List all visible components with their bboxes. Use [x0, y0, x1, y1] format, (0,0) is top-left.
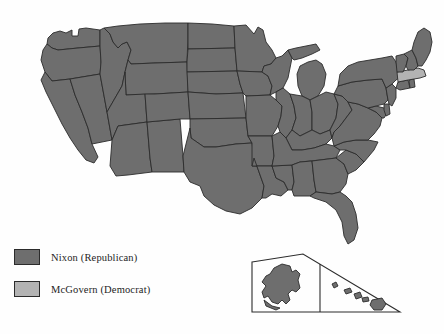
state-MI[interactable] [288, 44, 326, 100]
legend-item-democrat[interactable]: McGovern (Democrat) [14, 278, 204, 300]
state-HI-2[interactable] [344, 288, 352, 294]
legend-swatch-republican [14, 249, 40, 265]
state-AR[interactable] [248, 136, 274, 166]
state-KS[interactable] [188, 92, 246, 119]
state-FL[interactable] [310, 192, 358, 244]
state-HI-4[interactable] [362, 297, 369, 302]
state-SD[interactable] [187, 48, 237, 72]
legend-item-republican[interactable]: Nixon (Republican) [14, 246, 204, 268]
state-WY[interactable] [125, 60, 188, 95]
state-OK[interactable] [190, 118, 252, 147]
legend-swatch-democrat [14, 281, 40, 297]
state-HI[interactable] [332, 282, 338, 288]
state-CO[interactable] [145, 92, 190, 122]
state-AK[interactable] [262, 264, 300, 310]
state-ND[interactable] [188, 23, 235, 49]
state-NE[interactable] [187, 71, 243, 94]
legend-label-democrat: McGovern (Democrat) [51, 284, 150, 295]
state-HI-3[interactable] [354, 292, 362, 299]
state-NM[interactable] [147, 119, 184, 172]
state-HI-5[interactable] [370, 298, 386, 310]
map-legend: Nixon (Republican) McGovern (Democrat) [14, 246, 204, 310]
state-AZ[interactable] [110, 122, 152, 176]
legend-label-republican: Nixon (Republican) [51, 252, 137, 263]
state-RI[interactable] [409, 79, 415, 88]
election-map-figure: Nixon (Republican) McGovern (Democrat) [0, 0, 444, 334]
